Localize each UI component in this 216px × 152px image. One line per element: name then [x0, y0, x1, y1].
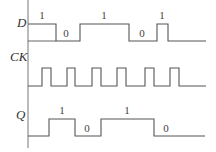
- signal-label-ck: CK: [10, 49, 29, 64]
- signal-label-q: Q: [16, 107, 26, 122]
- level-label: 0: [63, 27, 69, 39]
- waveform-ck: [28, 68, 206, 86]
- signal-group: D10101CKQ1010: [10, 9, 206, 136]
- level-label: 1: [101, 9, 107, 21]
- level-label: 1: [59, 104, 65, 116]
- waveform-q: [28, 119, 205, 136]
- signal-label-d: D: [16, 15, 27, 30]
- level-label: 0: [84, 122, 90, 134]
- signal-q: Q1010: [16, 104, 205, 136]
- timing-diagram: D10101CKQ1010: [0, 0, 216, 152]
- signal-ck: CK: [10, 49, 206, 86]
- level-label: 0: [163, 122, 169, 134]
- level-label: 0: [139, 27, 145, 39]
- level-label: 1: [159, 9, 165, 21]
- signal-d: D10101: [16, 9, 206, 41]
- level-label: 1: [39, 9, 45, 21]
- waveform-d: [28, 24, 206, 41]
- level-label: 1: [124, 104, 130, 116]
